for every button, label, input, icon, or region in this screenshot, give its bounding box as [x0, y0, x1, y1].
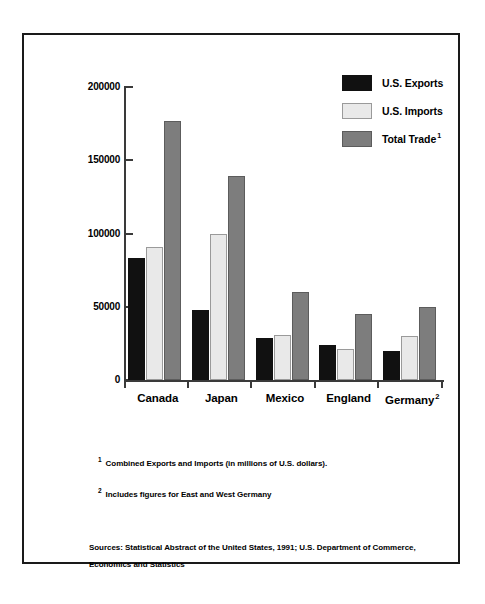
- y-tick-label-50000: 50000: [74, 301, 120, 312]
- footnotes: 1Combined Exports and Imports (in millio…: [98, 456, 448, 517]
- footnote-2-text: Includes figures for East and West Germa…: [106, 489, 272, 498]
- sources-line-1: Sources: Statistical Abstract of the Uni…: [89, 540, 449, 557]
- bar-canada-total: [164, 121, 181, 380]
- x-axis-label-text: Mexico: [266, 392, 304, 404]
- bar-germany-total: [419, 307, 436, 380]
- bar-germany-exports: [383, 351, 400, 380]
- y-tick-label-200000: 200000: [74, 81, 120, 92]
- x-axis-label-text: England: [326, 392, 371, 404]
- x-tick-mexico: [314, 380, 316, 388]
- x-axis-label-text: Germany: [385, 394, 434, 406]
- bar-japan-exports: [192, 310, 209, 380]
- bar-canada-exports: [128, 258, 145, 380]
- x-axis-label-footnote-marker: 2: [435, 392, 439, 401]
- bar-england-imports: [337, 349, 354, 380]
- bar-japan-imports: [210, 234, 227, 381]
- bar-england-exports: [319, 345, 336, 380]
- x-axis-label-canada: Canada: [126, 392, 190, 404]
- bar-canada-imports: [146, 247, 163, 380]
- footnote-1-text: Combined Exports and Imports (in million…: [106, 459, 328, 468]
- footnote-2-marker: 2: [98, 487, 102, 494]
- y-tick-label-100000: 100000: [74, 228, 120, 239]
- bar-mexico-imports: [274, 335, 291, 380]
- x-tick-canada: [187, 380, 189, 388]
- x-axis-label-text: Japan: [205, 392, 238, 404]
- chart-frame: U.S. Exports U.S. Imports Total Trade1 0…: [22, 33, 460, 564]
- bar-mexico-exports: [256, 338, 273, 380]
- x-tick-origin: [124, 380, 126, 388]
- bar-germany-imports: [401, 336, 418, 380]
- x-tick-england: [377, 380, 379, 388]
- y-tick-label-150000: 150000: [74, 154, 120, 165]
- bar-japan-total: [228, 176, 245, 380]
- y-tick-label-0: 0: [74, 374, 120, 385]
- x-axis-label-germany: Germany2: [380, 392, 444, 406]
- bar-mexico-total: [292, 292, 309, 380]
- x-axis-label-mexico: Mexico: [253, 392, 317, 404]
- x-axis: [124, 380, 444, 382]
- x-axis-label-japan: Japan: [190, 392, 254, 404]
- footnote-2: 2Includes figures for East and West Germ…: [98, 487, 448, 500]
- x-axis-label-england: England: [317, 392, 381, 404]
- bars-layer: [126, 87, 444, 380]
- x-tick-japan: [250, 380, 252, 388]
- plot-area: 050000100000150000200000 CanadaJapanMexi…: [74, 87, 449, 432]
- sources-note: Sources: Statistical Abstract of the Uni…: [89, 540, 449, 574]
- x-tick-germany: [441, 380, 443, 388]
- footnote-1-marker: 1: [98, 456, 102, 463]
- sources-line-2: Economics and Statistics: [89, 557, 449, 574]
- x-axis-label-text: Canada: [137, 392, 178, 404]
- bar-england-total: [355, 314, 372, 380]
- footnote-1: 1Combined Exports and Imports (in millio…: [98, 456, 448, 469]
